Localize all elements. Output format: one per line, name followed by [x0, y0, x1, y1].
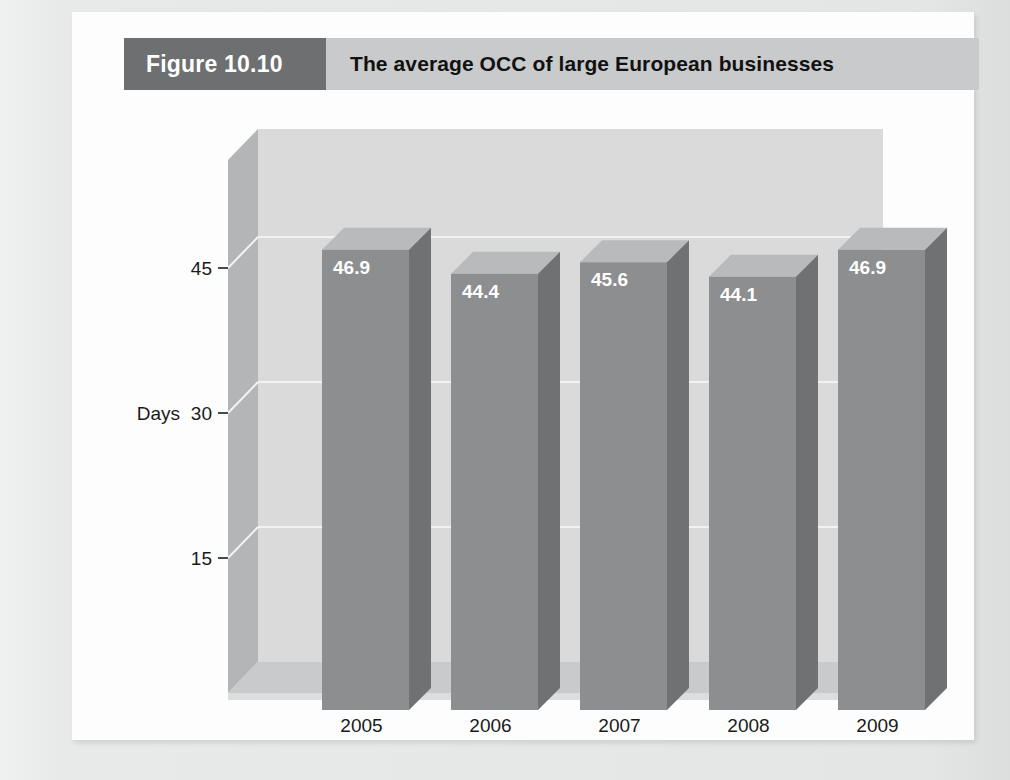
x-tick-label-2009: 2009	[856, 715, 898, 736]
bar-chart-3d: 46.9 44.4 45.6 44.1 46.9 45 30 15 Days 2…	[72, 96, 974, 736]
bar-value-label-2005: 46.9	[333, 257, 370, 278]
bar-side-face	[667, 240, 689, 710]
bar-front-face	[580, 262, 667, 710]
bar-front-face	[838, 250, 925, 710]
bar-front-face	[322, 250, 409, 710]
y-axis-title: Days	[137, 403, 180, 424]
bar-2008[interactable]	[709, 255, 818, 710]
figure-title-block: The average OCC of large European busine…	[326, 38, 979, 90]
y-tick-label-45: 45	[191, 258, 212, 279]
x-tick-label-2005: 2005	[340, 715, 382, 736]
figure-header-band: Figure 10.10 The average OCC of large Eu…	[124, 38, 979, 90]
bar-2005[interactable]	[322, 228, 431, 710]
figure-card: Figure 10.10 The average OCC of large Eu…	[72, 12, 974, 740]
bar-value-label-2009: 46.9	[849, 257, 886, 278]
figure-number-block: Figure 10.10	[124, 38, 326, 90]
bar-2009[interactable]	[838, 228, 947, 710]
bar-side-face	[925, 228, 947, 710]
x-tick-label-2008: 2008	[727, 715, 769, 736]
figure-number-label: Figure 10.10	[146, 51, 283, 78]
bar-2006[interactable]	[451, 252, 560, 710]
left-side-wall	[228, 129, 258, 693]
chart-canvas: 46.9 44.4 45.6 44.1 46.9 45 30 15 Days 2…	[72, 96, 974, 736]
bar-2007[interactable]	[580, 240, 689, 710]
x-tick-label-2006: 2006	[469, 715, 511, 736]
bar-value-label-2007: 45.6	[591, 269, 628, 290]
axis-ticks	[218, 268, 228, 558]
bar-value-label-2008: 44.1	[720, 284, 757, 305]
bar-value-label-2006: 44.4	[462, 281, 499, 302]
x-tick-label-2007: 2007	[598, 715, 640, 736]
bar-front-face	[451, 274, 538, 710]
y-tick-label-30: 30	[191, 403, 212, 424]
bar-side-face	[538, 252, 560, 710]
bar-side-face	[409, 228, 431, 710]
bar-side-face	[796, 255, 818, 710]
bar-front-face	[709, 277, 796, 710]
y-tick-label-15: 15	[191, 548, 212, 569]
figure-title-label: The average OCC of large European busine…	[350, 52, 834, 76]
